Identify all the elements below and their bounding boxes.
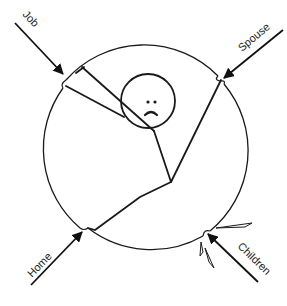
- figure-eye-left: [146, 100, 149, 103]
- arrow-children: Children: [208, 234, 273, 282]
- figure-eye-right: [153, 100, 156, 103]
- arrow-home: Home: [25, 232, 82, 285]
- label-spouse: Spouse: [236, 20, 272, 53]
- label-children: Children: [236, 240, 274, 277]
- figure-arm-upper: [82, 67, 154, 131]
- label-job: Job: [21, 8, 42, 29]
- figure-arm-lower: [66, 86, 124, 117]
- figure-leg-right: [171, 80, 221, 182]
- figure-torso: [154, 131, 171, 182]
- diagram-canvas: Job Spouse Home Children: [0, 0, 287, 306]
- figure-hand-bar: [76, 67, 84, 73]
- arrow-job: Job: [15, 8, 63, 74]
- figure-leg-left: [88, 182, 171, 230]
- stretched-figure-diagram: Job Spouse Home Children: [0, 0, 287, 306]
- figure-frown: [145, 112, 157, 115]
- stick-figure: [66, 67, 221, 230]
- boundary-circle: [43, 45, 248, 250]
- arrow-spouse: Spouse: [224, 20, 283, 78]
